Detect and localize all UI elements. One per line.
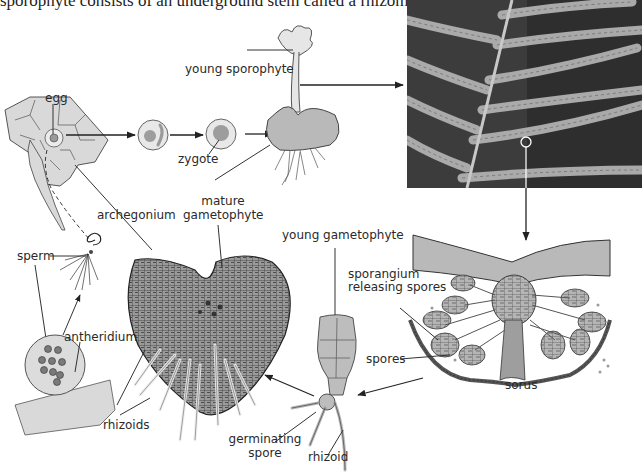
label-germinating-spore: germinating spore bbox=[225, 432, 305, 460]
label-sperm: sperm bbox=[17, 249, 55, 263]
label-antheridium: antheridium bbox=[64, 330, 137, 344]
label-young-sporophyte: young sporophyte bbox=[185, 62, 294, 76]
label-zygote: zygote bbox=[178, 152, 218, 166]
label-egg: egg bbox=[45, 91, 68, 105]
label-germinating-line2: spore bbox=[225, 446, 305, 460]
label-germinating-line1: germinating bbox=[225, 432, 305, 446]
label-archegonium: archegonium bbox=[97, 208, 176, 222]
label-spores: spores bbox=[366, 352, 406, 366]
fertilization-cell bbox=[138, 120, 168, 150]
sorus-cross-section bbox=[358, 235, 610, 395]
label-mature-line2: gametophyte bbox=[183, 208, 263, 222]
label-sorus: sorus bbox=[505, 378, 537, 392]
label-sporangium-line2: releasing spores bbox=[348, 281, 446, 294]
egg-cell bbox=[50, 134, 58, 142]
zygote-cell bbox=[206, 119, 236, 154]
label-mature-line1: mature bbox=[183, 194, 263, 208]
label-rhizoid: rhizoid bbox=[308, 450, 348, 464]
mature-gametophyte-drawing bbox=[128, 225, 290, 440]
label-rhizoids: rhizoids bbox=[103, 418, 150, 432]
label-sporangium: sporangium releasing spores bbox=[348, 268, 446, 294]
young-sporophyte-drawing bbox=[215, 26, 403, 185]
archegonium-drawing bbox=[5, 97, 152, 250]
label-young-gametophyte: young gametophyte bbox=[282, 228, 404, 242]
label-mature-gametophyte: mature gametophyte bbox=[183, 194, 263, 222]
